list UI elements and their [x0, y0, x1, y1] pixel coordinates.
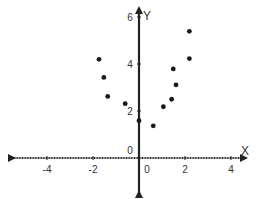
data-point	[105, 94, 110, 99]
scatter-chart: -4-20240246 X Y	[0, 0, 259, 199]
x-axis-label: X	[241, 144, 249, 158]
y-axis-label: Y	[143, 9, 151, 23]
data-point	[137, 118, 142, 123]
x-tick-label: 0	[144, 164, 150, 175]
x-tick-label: -2	[89, 164, 98, 175]
data-point	[169, 97, 174, 102]
x-tick-label: -4	[43, 164, 52, 175]
x-tick-label: 4	[228, 164, 234, 175]
data-point	[174, 83, 179, 88]
x-tick-label: 2	[182, 164, 188, 175]
data-point	[123, 101, 128, 106]
data-point	[187, 29, 192, 34]
data-point	[101, 75, 106, 80]
y-tick-label: 4	[127, 59, 133, 70]
data-point	[161, 104, 166, 109]
data-points	[97, 29, 192, 128]
data-point	[171, 67, 176, 72]
data-point	[151, 123, 156, 128]
y-tick-label: 6	[127, 12, 133, 23]
data-point	[187, 56, 192, 61]
data-point	[97, 57, 102, 62]
y-tick-label: 0	[127, 145, 133, 156]
y-tick-label: 2	[127, 106, 133, 117]
